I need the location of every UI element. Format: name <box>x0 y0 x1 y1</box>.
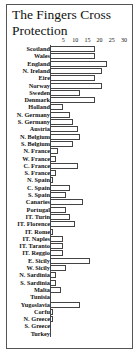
bar <box>51 112 70 118</box>
bar <box>51 192 66 198</box>
bar <box>51 250 63 256</box>
bar <box>51 68 102 74</box>
bar <box>51 163 78 169</box>
bar <box>51 280 56 286</box>
bar <box>51 207 66 213</box>
bar <box>51 258 90 264</box>
bar <box>51 309 53 315</box>
bar <box>51 97 95 103</box>
x-tick-label: 5 <box>62 37 65 43</box>
bar <box>51 214 70 220</box>
bar-row: Turkey <box>0 330 138 338</box>
bar <box>51 46 95 52</box>
bar <box>51 156 56 162</box>
chart-title: The Fingers Cross Protection <box>12 7 130 39</box>
bar <box>51 236 63 242</box>
bar <box>51 119 73 125</box>
bar <box>51 126 78 132</box>
bar <box>51 243 63 249</box>
bar <box>51 90 80 96</box>
bar <box>51 287 61 293</box>
x-tick-label: 15 <box>84 37 90 43</box>
bar <box>51 104 63 110</box>
bar <box>51 302 80 308</box>
bar <box>51 75 95 81</box>
bar <box>51 316 53 322</box>
bar <box>51 272 56 278</box>
bar <box>51 265 66 271</box>
bar <box>51 177 53 183</box>
bar <box>51 170 56 176</box>
bar <box>51 229 53 235</box>
bar <box>51 221 75 227</box>
x-tick-label: 10 <box>72 37 78 43</box>
bar <box>51 83 102 89</box>
bar <box>51 185 70 191</box>
bar <box>51 53 95 59</box>
bar <box>51 141 73 147</box>
x-tick-label: 30 <box>121 37 127 43</box>
bar <box>51 61 107 67</box>
x-tick-label: 20 <box>97 37 103 43</box>
bar <box>51 199 83 205</box>
category-label: Turkey <box>31 329 50 338</box>
bar <box>51 148 58 154</box>
bar <box>51 134 80 140</box>
x-tick-label: 25 <box>109 37 115 43</box>
